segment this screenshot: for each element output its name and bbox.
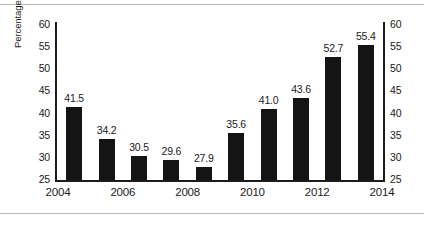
y-axis-right-tick-label: 45: [390, 84, 401, 96]
bar: [293, 98, 309, 180]
bar-value-label: 35.6: [218, 118, 254, 130]
y-axis-tick-label: 60: [39, 18, 50, 30]
y-axis-right-tick-label: 25: [390, 173, 401, 185]
bar: [358, 45, 374, 180]
y-axis-right-tick-label: 55: [390, 40, 401, 52]
bar-value-label: 41.5: [56, 92, 92, 104]
y-axis-tick-label: 25: [39, 173, 50, 185]
y-axis-tick-label: 50: [39, 62, 50, 74]
x-axis-tick-label: 2014: [360, 186, 404, 198]
y-axis-right-tick-label: 40: [390, 107, 401, 119]
y-axis-right-line: [383, 22, 385, 182]
bar: [66, 107, 82, 180]
plot-area: 2530354045505560 2530354045505560 41.534…: [55, 22, 385, 182]
y-axis-tick-label: 45: [39, 84, 50, 96]
y-axis-title: Percentage of GDP: [12, 0, 23, 48]
x-axis-tick-label: 2012: [295, 186, 339, 198]
chart-page: Percentage of GDP 2530354045505560 25303…: [0, 0, 424, 226]
y-axis-right-tick-label: 30: [390, 151, 401, 163]
bar: [196, 167, 212, 180]
bar: [228, 133, 244, 180]
x-axis-tick-label: 2010: [230, 186, 274, 198]
y-axis-right-tick-label: 50: [390, 62, 401, 74]
x-axis-line: [55, 180, 385, 182]
bar: [261, 109, 277, 180]
bar-value-label: 55.4: [348, 30, 384, 42]
bar-value-label: 52.7: [315, 42, 351, 54]
bar-value-label: 29.6: [153, 145, 189, 157]
bar-value-label: 34.2: [89, 124, 125, 136]
bar: [163, 160, 179, 180]
bar-value-label: 30.5: [121, 141, 157, 153]
y-axis-title-container: Percentage of GDP: [14, 20, 28, 180]
bar-value-label: 41.0: [251, 94, 287, 106]
x-axis-tick-label: 2004: [36, 186, 80, 198]
bar-value-label: 43.6: [283, 83, 319, 95]
page-top-rule: [0, 4, 424, 5]
bar: [325, 57, 341, 180]
y-axis-tick-label: 30: [39, 151, 50, 163]
y-axis-right-tick-label: 60: [390, 18, 401, 30]
y-axis-tick-label: 55: [39, 40, 50, 52]
x-axis-tick-label: 2008: [166, 186, 210, 198]
x-axis-tick-label: 2006: [101, 186, 145, 198]
bar-value-label: 27.9: [186, 152, 222, 164]
y-axis-tick-label: 35: [39, 129, 50, 141]
y-axis-tick-label: 40: [39, 107, 50, 119]
page-bottom-rule: [0, 213, 424, 214]
y-axis-right-tick-label: 35: [390, 129, 401, 141]
bar: [99, 139, 115, 180]
bar: [131, 156, 147, 180]
